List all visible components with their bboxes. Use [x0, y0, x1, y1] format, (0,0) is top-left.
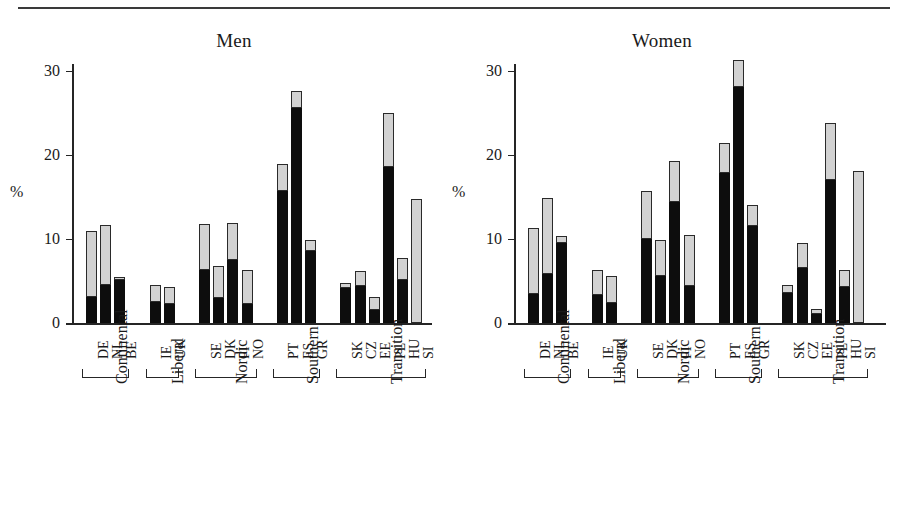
bar-segment-lower — [227, 260, 238, 323]
bar-segment-lower — [592, 295, 603, 323]
bar-uk — [164, 287, 175, 323]
category-label-no: NO — [252, 339, 266, 359]
group-label-liberal: Liberal — [170, 338, 186, 384]
bar-segment-lower — [355, 286, 366, 323]
category-label-de: DE — [539, 340, 553, 359]
y-axis-men — [72, 64, 74, 323]
bar-segment-upper — [150, 285, 161, 302]
bar-segment-upper — [733, 60, 744, 87]
bar-cz — [355, 271, 366, 323]
bar-segment-upper — [164, 287, 175, 304]
category-label-si: SI — [422, 347, 436, 359]
bar-segment-upper — [655, 240, 666, 276]
bar-segment-upper — [556, 236, 567, 243]
bar-segment-upper — [369, 297, 380, 310]
bar-ee — [811, 309, 822, 323]
panel-title-men: Men — [8, 30, 460, 52]
bar-es — [291, 91, 302, 323]
panel-women: Women 0102030% DENLBEIEUKSEDKFINOPTESGRS… — [452, 0, 904, 522]
category-label-cz: CZ — [807, 341, 821, 359]
bar-fi — [669, 161, 680, 323]
y-axis-women — [514, 64, 516, 323]
bar-gr — [305, 240, 316, 323]
group-label-nordic: Nordic — [234, 340, 250, 384]
figure-page: Men 0102030% DENLBEIEUKSEDKFINOPTESGRSKC… — [0, 0, 905, 522]
y-tick-label-10: 10 — [468, 231, 502, 247]
bar-segment-lower — [839, 287, 850, 323]
bar-sk — [340, 283, 351, 323]
plot-area-women: 0102030% DENLBEIEUKSEDKFINOPTESGRSKCZEEP… — [514, 64, 874, 323]
bar-de — [86, 231, 97, 323]
bar-segment-lower — [277, 191, 288, 323]
y-tick-0 — [508, 323, 514, 325]
bar-segment-lower — [213, 298, 224, 323]
bar-segment-lower — [528, 294, 539, 323]
bar-segment-lower — [811, 314, 822, 323]
bar-se — [641, 191, 652, 323]
bar-segment-upper — [542, 198, 553, 274]
bar-de — [528, 228, 539, 323]
bar-segment-lower — [797, 268, 808, 323]
bar-pl — [383, 113, 394, 323]
bar-segment-upper — [641, 191, 652, 239]
bar-segment-upper — [227, 223, 238, 260]
y-tick-label-10: 10 — [26, 231, 60, 247]
bar-segment-upper — [397, 258, 408, 280]
category-label-hu: HU — [850, 339, 864, 359]
bar-nl — [542, 198, 553, 323]
bar-segment-upper — [839, 270, 850, 287]
y-tick-label-0: 0 — [26, 315, 60, 331]
bar-segment-lower — [305, 251, 316, 323]
bar-segment-lower — [369, 310, 380, 323]
y-axis-label: % — [452, 183, 465, 201]
bar-segment-upper — [291, 91, 302, 108]
y-tick-20 — [66, 155, 72, 157]
category-label-de: DE — [97, 340, 111, 359]
bar-ee — [369, 297, 380, 323]
y-tick-label-30: 30 — [26, 63, 60, 79]
bar-segment-lower — [100, 285, 111, 323]
bar-segment-upper — [411, 199, 422, 323]
bar-gr — [747, 205, 758, 323]
panel-title-women: Women — [436, 30, 888, 52]
bar-segment-upper — [669, 161, 680, 202]
bar-fi — [227, 223, 238, 323]
plot-area-men: 0102030% DENLBEIEUKSEDKFINOPTESGRSKCZEEP… — [72, 64, 432, 323]
bar-no — [242, 270, 253, 323]
bar-segment-upper — [100, 225, 111, 285]
bar-hu — [397, 258, 408, 323]
bar-segment-lower — [150, 302, 161, 323]
group-label-continental: Continental — [114, 309, 130, 384]
bar-segment-upper — [213, 266, 224, 298]
bar-ie — [150, 285, 161, 323]
bar-segment-upper — [305, 240, 316, 251]
bar-segment-upper — [199, 224, 210, 270]
bar-pt — [277, 164, 288, 323]
group-bracket-transition — [336, 369, 426, 378]
category-label-cz: CZ — [365, 341, 379, 359]
bar-segment-upper — [853, 171, 864, 323]
bar-segment-upper — [242, 270, 253, 304]
category-label-si: SI — [864, 347, 878, 359]
bar-nl — [100, 225, 111, 323]
group-label-liberal: Liberal — [612, 338, 628, 384]
bar-si — [853, 171, 864, 323]
bar-segment-upper — [719, 143, 730, 172]
bar-dk — [213, 266, 224, 323]
category-label-pt: PT — [729, 343, 743, 359]
bar-segment-upper — [355, 271, 366, 286]
bar-se — [199, 224, 210, 323]
bar-segment-upper — [86, 231, 97, 297]
bar-segment-lower — [669, 202, 680, 323]
bar-segment-lower — [733, 87, 744, 323]
y-tick-0 — [66, 323, 72, 325]
bar-segment-upper — [825, 123, 836, 180]
y-tick-30 — [66, 71, 72, 73]
bar-segment-lower — [164, 304, 175, 323]
bar-segment-lower — [825, 180, 836, 323]
group-label-transition: Transition — [389, 319, 405, 384]
category-label-sk: SK — [793, 341, 807, 359]
bar-segment-upper — [383, 113, 394, 167]
bar-segment-upper — [797, 243, 808, 267]
category-label-sk: SK — [351, 341, 365, 359]
